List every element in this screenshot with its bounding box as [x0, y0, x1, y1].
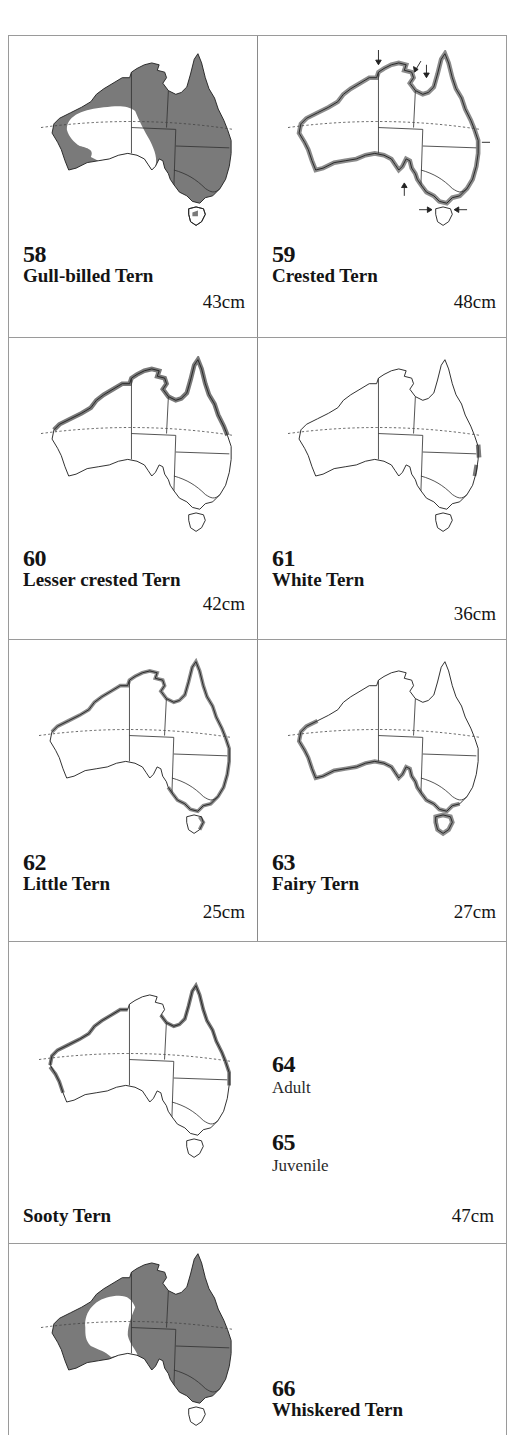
species-card-66: 66 Whiskered Tern — [9, 1244, 506, 1439]
species-number: 63 — [272, 850, 295, 874]
species-number: 59 — [272, 242, 295, 266]
adult-number: 64 — [272, 1052, 295, 1076]
range-map-62 — [29, 658, 241, 838]
juvenile-number: 65 — [272, 1130, 295, 1154]
species-card-58: 58 Gull-billed Tern 43cm — [9, 36, 258, 337]
species-name: Crested Tern — [272, 266, 378, 286]
species-card-60: 60 Lesser crested Tern 42cm — [9, 338, 258, 639]
species-card-61: 61 White Tern 36cm — [258, 338, 508, 639]
range-map-58 — [31, 50, 243, 230]
species-size: 42cm — [203, 594, 245, 614]
species-card-59: 59 Crested Tern 48cm — [258, 36, 508, 337]
species-name: Sooty Tern — [23, 1206, 111, 1226]
species-number: 61 — [272, 546, 295, 570]
species-number: 60 — [23, 546, 46, 570]
row-1: 58 Gull-billed Tern 43cm 59 Cr — [9, 36, 506, 338]
range-map-61 — [278, 356, 490, 536]
adult-label: Adult — [272, 1079, 311, 1097]
species-number: 66 — [272, 1376, 295, 1400]
species-number: 58 — [23, 242, 46, 266]
range-map-60 — [31, 356, 243, 536]
species-size: 47cm — [452, 1206, 494, 1226]
species-name: Fairy Tern — [272, 874, 359, 894]
species-plate: 58 Gull-billed Tern 43cm 59 Cr — [8, 35, 507, 1435]
species-size: 43cm — [203, 292, 245, 312]
range-map-sooty — [29, 982, 241, 1162]
species-card-63: 63 Fairy Tern 27cm — [258, 640, 508, 941]
species-number: 62 — [23, 850, 46, 874]
row-4: 64 Adult 65 Juvenile Sooty Tern 47cm — [9, 942, 506, 1244]
row-3: 62 Little Tern 25cm 63 Fairy Tern 27cm — [9, 640, 506, 942]
species-card-sooty: 64 Adult 65 Juvenile Sooty Tern 47cm — [9, 942, 506, 1243]
species-name: Gull-billed Tern — [23, 266, 153, 286]
range-map-59 — [278, 50, 490, 230]
row-5: 66 Whiskered Tern — [9, 1244, 506, 1439]
species-name: Whiskered Tern — [272, 1400, 403, 1420]
species-size: 48cm — [454, 292, 496, 312]
species-size: 36cm — [454, 604, 496, 624]
species-name: Little Tern — [23, 874, 110, 894]
species-size: 25cm — [203, 902, 245, 922]
species-name: Lesser crested Tern — [23, 570, 181, 590]
species-card-62: 62 Little Tern 25cm — [9, 640, 258, 941]
juvenile-label: Juvenile — [272, 1157, 329, 1175]
range-map-66 — [31, 1250, 243, 1430]
species-size: 27cm — [454, 902, 496, 922]
species-name: White Tern — [272, 570, 364, 590]
range-map-63 — [278, 658, 490, 838]
row-2: 60 Lesser crested Tern 42cm 61 White Ter… — [9, 338, 506, 640]
